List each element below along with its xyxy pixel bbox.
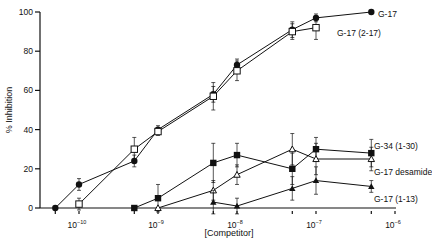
x-tick-label: 10−6: [385, 219, 401, 230]
marker-filled-square: [210, 160, 216, 166]
marker-filled-square: [289, 166, 295, 172]
inhibition-chart: 02040608010010−1010−910−810−710−6 G-17G-…: [0, 0, 432, 241]
chart-canvas: 02040608010010−1010−910−810−710−6 G-17G-…: [0, 0, 432, 241]
series-labels: G-17G-17 (2-17)G-34 (1-30)G-17 desamideG…: [337, 9, 432, 204]
series-line: [158, 149, 371, 208]
y-tick-label: 40: [24, 125, 34, 135]
marker-filled-triangle: [313, 177, 319, 183]
x-tick-label: 10−10: [68, 219, 87, 230]
series-line: [79, 28, 316, 204]
marker-filled-circle: [368, 9, 374, 15]
axes: 02040608010010−1010−910−810−710−6: [19, 7, 401, 230]
marker-filled-square: [155, 195, 161, 201]
series-label: G-34 (1-30): [374, 141, 418, 151]
x-tick-label: 10−7: [306, 219, 322, 230]
series-label: G-17 (1-13): [374, 194, 418, 204]
series-label: G-17 desamide: [374, 167, 432, 177]
marker-filled-triangle: [210, 199, 216, 205]
series-label: G-17: [378, 9, 397, 19]
marker-open-triangle: [289, 146, 295, 152]
marker-filled-circle: [52, 205, 58, 211]
y-tick-label: 20: [24, 164, 34, 174]
marker-open-square: [234, 68, 240, 74]
series-g-17-desamide: [155, 134, 375, 211]
series-layer: [52, 9, 374, 214]
marker-open-square: [155, 128, 161, 134]
marker-open-square: [131, 146, 137, 152]
marker-filled-square: [131, 205, 137, 211]
x-axis-label: [Competitor]: [204, 228, 253, 238]
marker-open-square: [210, 93, 216, 99]
series-label: G-17 (2-17): [337, 28, 381, 38]
y-tick-label: 60: [24, 85, 34, 95]
marker-open-square: [289, 28, 295, 34]
x-tick-label: 10−9: [148, 219, 164, 230]
y-tick-label: 80: [24, 46, 34, 56]
marker-open-square: [313, 24, 319, 30]
marker-open-triangle: [234, 171, 240, 177]
marker-filled-circle: [76, 181, 82, 187]
series-g-17-2-17-: [76, 16, 319, 210]
marker-filled-square: [234, 152, 240, 158]
y-axis-label: % Inhibition: [4, 87, 14, 134]
y-tick-label: 100: [19, 7, 33, 17]
marker-open-square: [76, 201, 82, 207]
series-line: [134, 149, 371, 208]
y-tick-label: 0: [28, 203, 33, 213]
